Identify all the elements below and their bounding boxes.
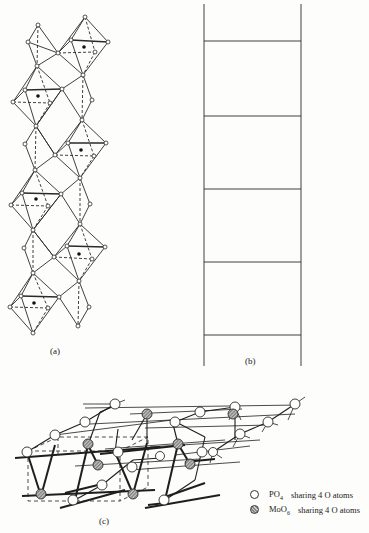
octahedron	[54, 224, 105, 281]
octahedron	[55, 120, 106, 178]
open-circle-icon	[250, 490, 259, 499]
figure-canvas	[0, 0, 369, 533]
octahedron	[10, 273, 59, 333]
hatched-circle-icon	[250, 505, 259, 514]
legend-text: sharing 4 O atoms	[298, 505, 360, 515]
octahedron	[13, 66, 62, 126]
tetrahedron	[62, 75, 92, 120]
legend-formula: PO4	[269, 489, 283, 501]
tetrahedron	[25, 126, 55, 170]
octahedron	[58, 17, 108, 75]
tetrahedron	[61, 178, 90, 224]
tetrahedron	[59, 281, 89, 326]
legend-formula: MoO6	[269, 504, 290, 516]
legend-text: sharing 4 O atoms	[291, 490, 353, 500]
panel-label-c: (c)	[99, 516, 109, 526]
octahedron	[11, 170, 61, 230]
legend-item-moo6: MoO6 sharing 4 O atoms	[250, 504, 360, 516]
tetrahedron	[24, 230, 54, 273]
panel-label-b: (b)	[245, 356, 256, 366]
legend-item-po4: PO4 sharing 4 O atoms	[250, 489, 353, 501]
tetrahedron	[28, 25, 58, 66]
panel-b-ladder	[204, 4, 301, 366]
panel-a-polyhedra	[8, 15, 110, 335]
panel-label-a: (a)	[50, 346, 60, 356]
